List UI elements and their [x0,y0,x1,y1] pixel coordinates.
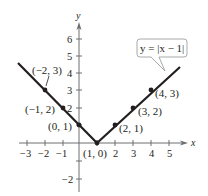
svg-text:2: 2 [113,148,118,159]
label-0-1: (0, 1) [48,120,72,133]
x-axis-label: x [190,137,196,148]
callout-label: y = |x − 1| [140,42,184,54]
svg-text:−2: −2 [62,174,73,185]
svg-text:−3: −3 [20,148,31,159]
svg-text:−2: −2 [38,148,49,159]
leader-neg2-3 [46,76,49,86]
label-2-1: (2, 1) [119,122,143,135]
point-4-3 [149,88,154,93]
label-neg1-2: (−1, 2) [25,103,55,116]
point-2-1 [113,123,118,128]
svg-text:4: 4 [67,68,73,79]
point-0-1 [77,123,82,128]
point-neg1-2 [61,106,66,111]
axes: x y [19,10,196,192]
label-neg2-3: (−2, 3) [32,64,62,77]
data-points [43,88,154,146]
svg-text:6: 6 [67,34,72,45]
svg-text:5: 5 [167,148,172,159]
svg-text:3: 3 [131,148,136,159]
label-1-0: (1, 0) [83,147,107,160]
point-neg2-3 [43,88,48,93]
y-axis-label: y [75,10,81,21]
svg-text:−1: −1 [56,148,67,159]
point-3-2 [131,106,136,111]
svg-text:5: 5 [67,51,72,62]
svg-text:3: 3 [67,85,72,96]
function-callout: y = |x − 1| [137,39,187,71]
label-4-3: (4, 3) [155,87,179,100]
absolute-value-graph: x y −3 −2 −1 2 3 4 5 6 5 4 3 2 − [0,0,208,196]
label-3-2: (3, 2) [138,105,162,118]
point-labels: (−2, 3) (−1, 2) (0, 1) (1, 0) (2, 1) (3,… [25,64,179,160]
svg-text:4: 4 [149,148,155,159]
point-1-0 [95,141,100,146]
